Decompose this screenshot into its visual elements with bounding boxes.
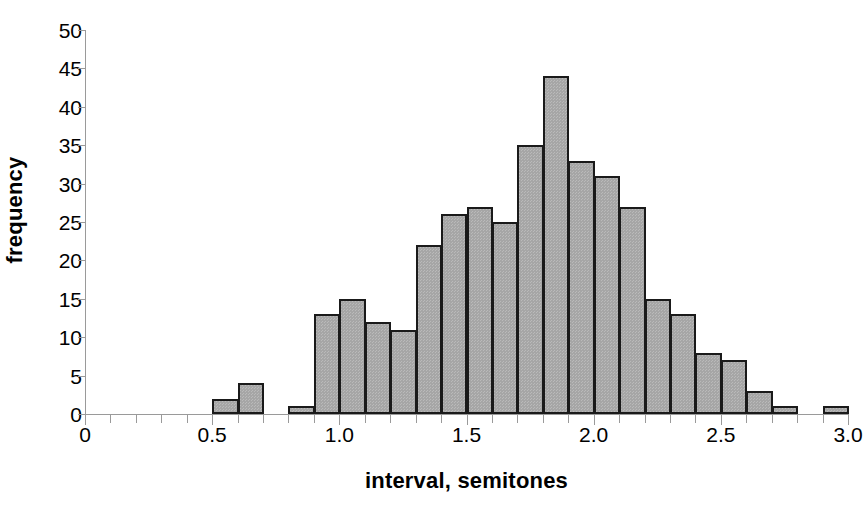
x-axis-tick-label: 2.0 [554,424,634,445]
x-axis-minor-tick-mark [365,415,366,423]
y-axis-tick-label: 30 [26,173,82,194]
histogram-bar [365,322,391,414]
histogram-chart: frequency 05101520253035404550 00.51.01.… [0,0,864,511]
x-axis-minor-tick-mark [314,415,315,423]
y-axis-tick-mark [78,184,85,185]
y-axis-tick-mark [78,222,85,223]
y-axis-tick-label: 25 [26,212,82,233]
histogram-bar [823,406,849,414]
histogram-bar [568,161,594,414]
histogram-bar [467,207,493,414]
y-axis-tick-mark [78,260,85,261]
x-axis-minor-tick-mark [543,415,544,423]
histogram-bar [721,360,747,414]
histogram-bar [314,314,340,414]
x-axis-tick-label: 0 [45,424,125,445]
x-axis-minor-tick-mark [823,415,824,423]
y-axis-title-text: frequency [2,157,28,264]
x-axis-minor-tick-mark [110,415,111,423]
x-axis-tick-label: 1.5 [427,424,507,445]
x-axis-minor-tick-mark [238,415,239,423]
plot-area [85,30,848,414]
y-axis-tick-mark [78,107,85,108]
y-axis-tick-mark [78,414,85,415]
y-axis-tick-label: 15 [26,288,82,309]
x-axis-tick-label: 3.0 [808,424,864,445]
histogram-bar [339,299,365,414]
x-axis-minor-tick-mark [263,415,264,423]
y-axis-tick-label: 5 [26,365,82,386]
x-axis-minor-tick-mark [390,415,391,423]
histogram-bar [746,391,772,414]
y-axis-tick-mark [78,145,85,146]
histogram-bar [288,406,314,414]
bar-series [85,30,848,414]
y-axis-tick-mark [78,30,85,31]
y-axis-tick-label: 40 [26,96,82,117]
x-axis-minor-tick-mark [568,415,569,423]
histogram-bar [390,330,416,414]
histogram-bar [619,207,645,414]
histogram-bar [543,76,569,414]
histogram-bar [517,145,543,414]
y-axis-tick-label: 20 [26,250,82,271]
x-axis-minor-tick-mark [187,415,188,423]
x-axis-minor-tick-mark [441,415,442,423]
x-axis-minor-tick-mark [136,415,137,423]
x-axis-minor-tick-mark [416,415,417,423]
x-axis-minor-tick-mark [288,415,289,423]
y-axis-tick-label: 10 [26,327,82,348]
histogram-bar [772,406,798,414]
y-axis-tick-label: 35 [26,135,82,156]
histogram-bar [695,353,721,414]
y-axis-tick-label: 0 [26,404,82,425]
x-axis-minor-tick-mark [161,415,162,423]
histogram-bar [645,299,671,414]
x-axis-minor-tick-mark [746,415,747,423]
x-axis-minor-tick-mark [645,415,646,423]
x-axis-title: interval, semitones [85,468,848,494]
y-axis-tick-mark [78,376,85,377]
x-axis-tick-label: 0.5 [172,424,252,445]
x-axis-minor-tick-mark [619,415,620,423]
x-axis-tick-labels: 00.51.01.52.02.53.0 [85,424,848,458]
y-axis-tick-mark [78,337,85,338]
histogram-bar [212,399,238,414]
histogram-bar [441,214,467,414]
y-axis-tick-mark [78,299,85,300]
y-axis-tick-mark [78,68,85,69]
histogram-bar [594,176,620,414]
x-axis-minor-tick-mark [492,415,493,423]
x-axis-tick-label: 1.0 [299,424,379,445]
x-axis-minor-tick-mark [670,415,671,423]
histogram-bar [492,222,518,414]
x-axis-minor-tick-mark [695,415,696,423]
histogram-bar [670,314,696,414]
y-axis-tick-label: 50 [26,20,82,41]
y-axis-tick-label: 45 [26,58,82,79]
histogram-bar [416,245,442,414]
x-axis-minor-tick-mark [517,415,518,423]
x-axis-minor-tick-mark [797,415,798,423]
x-axis-minor-tick-mark [772,415,773,423]
x-axis-tick-label: 2.5 [681,424,761,445]
y-axis-tick-labels: 05101520253035404550 [26,0,82,430]
histogram-bar [238,383,264,414]
